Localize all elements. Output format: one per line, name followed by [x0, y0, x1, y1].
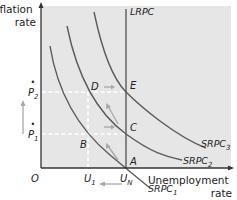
phillips-curve-diagram: Inflation rate Unemployment rate O LRPC … [0, 0, 237, 200]
origin-label: O [31, 173, 39, 184]
point-a-label: A [129, 156, 137, 167]
point-d-label: D [91, 81, 99, 92]
arrow-inflation-up-head-icon [21, 100, 26, 106]
svg-text:P1: P1 [28, 129, 39, 143]
point-b-label: B [80, 139, 87, 150]
point-e-label: E [130, 80, 137, 91]
x-tick-u1: U1 [84, 173, 96, 187]
lrpc-label: LRPC [130, 6, 155, 17]
y-axis-label: Inflation rate [0, 3, 36, 28]
arrow-unemployment-left-head-icon [99, 182, 105, 187]
svg-text:•: • [31, 78, 36, 87]
point-c-label: C [130, 122, 137, 133]
x-tick-un: UN [120, 173, 133, 187]
y-tick-p1: • P1 [28, 120, 39, 143]
svg-text:P2: P2 [28, 87, 39, 101]
y-axis-arrow-icon [39, 2, 44, 8]
y-tick-p2: • P2 [28, 78, 39, 101]
svg-text:•: • [31, 120, 36, 129]
